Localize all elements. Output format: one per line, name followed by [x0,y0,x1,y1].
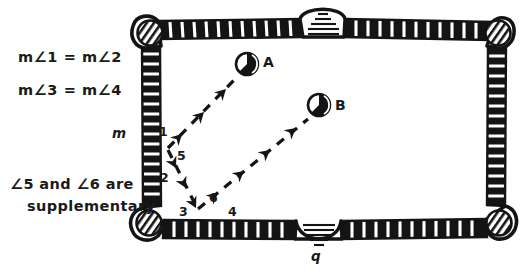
angle-label-6: 6 [209,192,218,205]
angle-label-3: 3 [179,206,188,219]
top-right-pocket[interactable] [486,18,515,48]
path-arrowheads-segment-1 [170,85,230,146]
angle-label-5: 5 [177,150,186,163]
statement-supplementary-line-1: ∠5 and ∠6 are [10,177,134,192]
right-rail [487,45,506,206]
ball-label-b: B [335,98,346,112]
path-arrowheads-segment-2 [166,155,202,210]
bottom-rail-right [341,219,487,239]
bottom-middle-pocket[interactable] [295,221,342,245]
table-rails [142,19,506,239]
shot-path [166,78,308,211]
top-middle-pocket[interactable] [300,9,345,37]
line-label-m: m [112,127,126,141]
billiard-angle-diagram: m∠1 = m∠2 m∠3 = m∠4 ∠5 and ∠6 are supple… [0,0,527,274]
bottom-right-pocket[interactable] [484,206,517,239]
angle-label-1: 1 [159,126,168,139]
statement-angle-3-equals-4: m∠3 = m∠4 [18,83,122,98]
statement-angle-1-equals-2: m∠1 = m∠2 [18,50,122,65]
statement-supplementary-line-2: supplementary [27,199,155,214]
table-frame [131,9,517,245]
ball-b [308,94,330,116]
angle-label-4: 4 [228,206,237,219]
angle-label-2: 2 [160,172,169,185]
top-left-pocket[interactable] [132,16,163,48]
line-label-q: q [311,250,321,264]
top-rail-left [158,19,303,39]
bottom-rail-left [163,220,296,239]
ball-a [236,53,258,75]
diagram-canvas [0,0,527,274]
top-rail-right [344,19,492,40]
ball-label-a: A [263,55,274,69]
